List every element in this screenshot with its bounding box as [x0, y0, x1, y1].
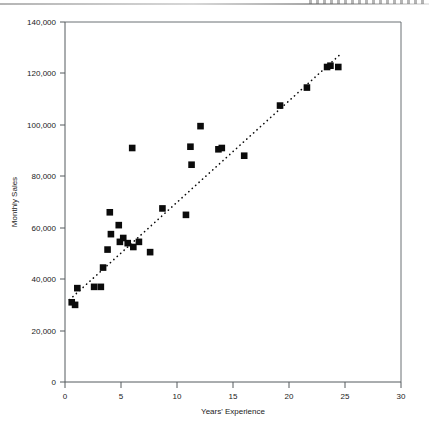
- data-point: [304, 84, 311, 91]
- y-tick-label: 0: [52, 378, 57, 387]
- data-point: [107, 209, 114, 216]
- data-point: [327, 62, 334, 69]
- data-point: [335, 64, 342, 71]
- data-points-group: [68, 62, 341, 308]
- data-point: [136, 239, 143, 246]
- data-point: [159, 205, 166, 212]
- x-axis-tick-labels: 0 5 10 15 20 25 30: [63, 392, 406, 401]
- data-point: [91, 284, 98, 291]
- scatter-chart: 140,000 120,000 100,000 80,000 60,000 40…: [0, 0, 429, 429]
- data-point: [74, 285, 81, 292]
- x-tick-label: 10: [173, 392, 182, 401]
- x-tick-label: 25: [341, 392, 350, 401]
- data-point: [183, 212, 190, 219]
- data-point: [108, 231, 115, 238]
- y-axis-tick-labels: 140,000 120,000 100,000 80,000 60,000 40…: [27, 18, 56, 387]
- data-point: [241, 152, 248, 159]
- data-point: [188, 161, 195, 168]
- y-tick-label: 60,000: [32, 224, 57, 233]
- y-tick-label: 100,000: [27, 121, 56, 130]
- data-point: [72, 302, 79, 309]
- y-tick-label: 20,000: [32, 327, 57, 336]
- trendline: [69, 54, 340, 300]
- data-point: [197, 123, 204, 130]
- data-point: [98, 284, 105, 291]
- data-point: [100, 264, 107, 271]
- y-tick-label: 120,000: [27, 69, 56, 78]
- x-tick-label: 30: [397, 392, 406, 401]
- y-axis-title: Monthly Sales: [10, 177, 19, 227]
- data-point: [129, 145, 136, 152]
- y-tick-label: 140,000: [27, 18, 56, 27]
- x-axis-ticks: [65, 382, 401, 388]
- y-axis-ticks: [60, 22, 65, 382]
- data-point: [277, 102, 284, 109]
- x-tick-label: 5: [119, 392, 124, 401]
- y-tick-label: 40,000: [32, 275, 57, 284]
- y-tick-label: 80,000: [32, 172, 57, 181]
- data-point: [187, 143, 194, 150]
- data-point: [219, 145, 226, 152]
- x-tick-label: 15: [229, 392, 238, 401]
- x-axis-title: Years' Experience: [201, 407, 265, 416]
- x-tick-label: 20: [285, 392, 294, 401]
- data-point: [147, 249, 154, 256]
- x-tick-label: 0: [63, 392, 68, 401]
- plot-canvas: 140,000 120,000 100,000 80,000 60,000 40…: [0, 0, 429, 429]
- data-point: [104, 246, 111, 253]
- data-point: [115, 222, 122, 229]
